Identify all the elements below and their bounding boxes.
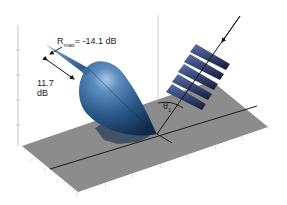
level-label: 11.7dB (37, 78, 54, 98)
rmax-label: Rmax= -14.1 dB (57, 36, 117, 50)
scattering-lobe (45, 44, 157, 136)
rmax-subscript: max (64, 42, 75, 48)
scattering-pattern-figure (0, 0, 287, 205)
theta-subscript: 1 (168, 107, 171, 113)
rmax-value: = -14.1 dB (75, 36, 117, 46)
z-axis-left (16, 25, 20, 146)
level-value: 11.7 (37, 78, 54, 88)
incident-arrow (222, 16, 240, 42)
theta-label: θ1 (163, 101, 171, 115)
level-unit: dB (37, 88, 54, 98)
